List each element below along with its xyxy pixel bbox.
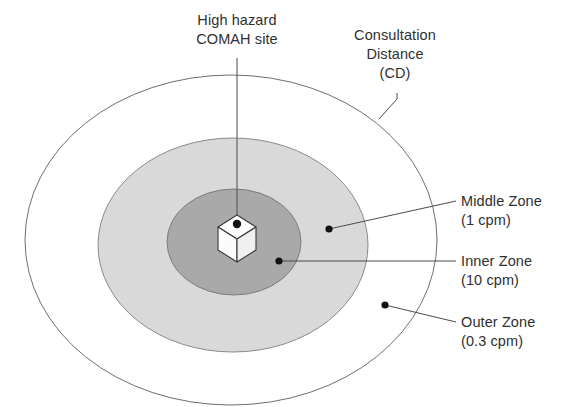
consultation-distance-leader-line (379, 93, 397, 119)
site-label-line1: High hazard (197, 12, 276, 28)
site-label-line2: COMAH site (196, 31, 278, 47)
inner-zone-label-line1: Inner Zone (461, 253, 532, 269)
site-apex-dot (233, 220, 241, 228)
cd-label-line3: (CD) (379, 65, 410, 81)
zone-diagram-container: High hazard COMAH site Consultation Dist… (0, 0, 568, 407)
middle-zone-dot (325, 225, 332, 232)
cd-label-line1: Consultation (354, 27, 436, 43)
middle-zone-label-line1: Middle Zone (461, 193, 542, 209)
inner-zone-dot (275, 257, 282, 264)
outer-zone-label-line2: (0.3 cpm) (461, 333, 523, 349)
middle-zone-label: Middle Zone (1 cpm) (461, 193, 542, 228)
consultation-distance-label: Consultation Distance (CD) (354, 27, 436, 81)
inner-zone-label-line2: (10 cpm) (461, 272, 519, 288)
outer-zone-dot (381, 301, 388, 308)
middle-zone-label-line2: (1 cpm) (461, 212, 511, 228)
cd-label-line2: Distance (366, 46, 423, 62)
outer-zone-label-line1: Outer Zone (461, 314, 535, 330)
outer-zone-label: Outer Zone (0.3 cpm) (461, 314, 535, 349)
inner-zone-label: Inner Zone (10 cpm) (461, 253, 532, 288)
site-label: High hazard COMAH site (196, 12, 278, 47)
comah-zone-diagram: High hazard COMAH site Consultation Dist… (0, 0, 568, 407)
